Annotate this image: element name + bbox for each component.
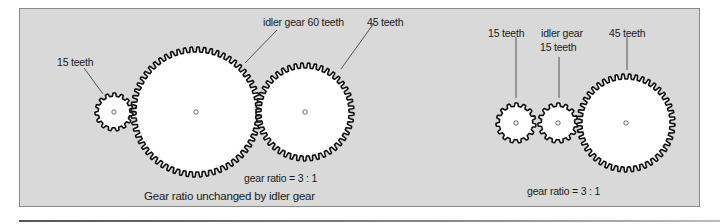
gear-axle-icon <box>556 121 560 125</box>
gear-axle-icon <box>514 121 518 125</box>
gear-right-driver <box>496 103 536 143</box>
gear-axle-icon <box>194 110 198 114</box>
gear-left-idler <box>131 47 261 177</box>
caption-idler-explanation: Gear ratio unchanged by idler gear <box>144 190 315 202</box>
label-left-driver-teeth: 15 teeth <box>57 56 93 68</box>
label-right-gear-ratio: gear ratio = 3 : 1 <box>527 185 600 197</box>
label-right-idler-teeth: 15 teeth <box>540 41 576 53</box>
label-left-driven-teeth: 45 teeth <box>367 16 403 28</box>
label-left-idler-teeth: idler gear 60 teeth <box>263 16 344 28</box>
gear-left-driven <box>256 63 354 161</box>
gear-axle-icon <box>624 121 628 125</box>
leader-left-idler <box>245 30 277 63</box>
gear-left-driver <box>95 93 133 131</box>
leader-left-driven <box>341 23 374 69</box>
label-right-driver-teeth: 15 teeth <box>488 27 524 39</box>
label-left-gear-ratio: gear ratio = 3 : 1 <box>244 172 317 184</box>
gear-axle-icon <box>112 110 116 114</box>
leader-left-driver <box>84 68 103 94</box>
gear-right-idler <box>538 103 578 143</box>
gear-axle-icon <box>303 110 307 114</box>
gear-right-driven <box>577 74 675 172</box>
gears-layer <box>95 47 675 177</box>
label-right-idler-line1: idler gear <box>541 27 583 39</box>
label-right-driven-teeth: 45 teeth <box>609 27 645 39</box>
